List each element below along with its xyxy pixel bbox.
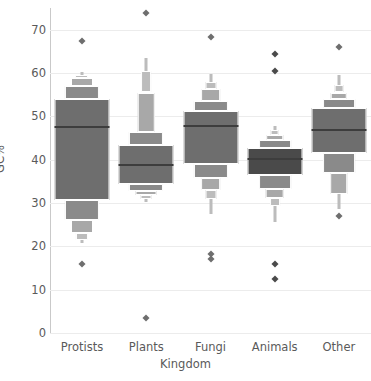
gridline [50, 333, 371, 334]
x-tick-label-protists: Protists [61, 340, 103, 354]
whisker [337, 194, 340, 209]
letter-value-box [323, 99, 355, 108]
letter-value-chart: 010203040506070 GC% ProtistsPlantsFungiA… [0, 0, 371, 381]
outlier-marker [335, 212, 342, 219]
outlier-marker [335, 43, 342, 50]
x-tick-label-plants: Plants [129, 340, 164, 354]
whisker [337, 75, 340, 85]
plot-area [50, 8, 371, 333]
x-tick-label-other: Other [323, 340, 356, 354]
y-tick-label: 60 [0, 66, 46, 80]
y-axis-label: GC% [0, 145, 7, 173]
y-tick-label: 70 [0, 23, 46, 37]
letter-value-box [323, 153, 355, 173]
y-tick-label: 30 [0, 196, 46, 210]
x-tick-label-fungi: Fungi [195, 340, 226, 354]
y-tick-label: 10 [0, 283, 46, 297]
letter-value-box [330, 173, 348, 195]
y-tick-label: 20 [0, 239, 46, 253]
median-line [311, 129, 366, 131]
x-axis-label: Kingdom [0, 357, 371, 371]
y-tick-label: 50 [0, 109, 46, 123]
letter-value-box [334, 85, 343, 92]
x-tick-label-animals: Animals [252, 340, 298, 354]
letter-value-group[interactable] [50, 8, 371, 333]
letter-value-box [331, 93, 348, 100]
y-tick-label: 0 [0, 326, 46, 340]
